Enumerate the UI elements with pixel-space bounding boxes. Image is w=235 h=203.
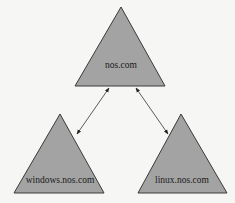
arrow-root-linux [136,88,168,134]
node-label-root: nos.com [105,60,137,70]
node-label-windows: windows.nos.com [26,175,95,185]
triangle-root [75,7,165,86]
node-label-linux: linux.nos.com [155,175,209,185]
domain-tree-diagram [0,0,235,203]
arrow-root-windows [77,88,109,134]
